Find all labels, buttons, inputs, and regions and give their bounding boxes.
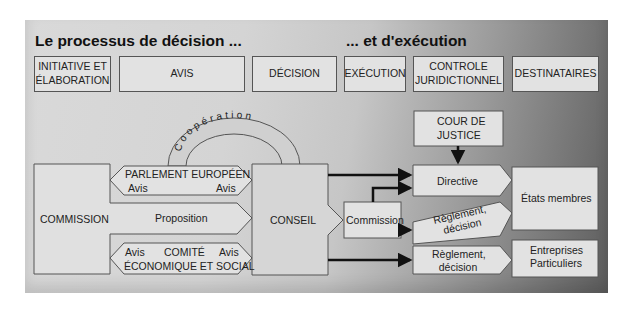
- commission-label: COMMISSION: [40, 213, 109, 225]
- parlement-label: PARLEMENT EUROPÉEN: [125, 168, 250, 180]
- proposition-label: Proposition: [155, 212, 208, 224]
- parlement-avis-left: Avis: [128, 182, 148, 194]
- parlement-avis-right: Avis: [216, 182, 236, 194]
- commission-exec-label: Commission: [346, 214, 404, 226]
- reglement-lower-label: Règlement, décision: [432, 248, 484, 273]
- entreprises-line1: Entreprises: [530, 244, 582, 256]
- comite-label: COMITÉ: [164, 246, 205, 258]
- cour-label: COUR DE JUSTICE: [437, 115, 481, 141]
- comite-avis-right: Avis: [219, 246, 239, 258]
- conseil-label: CONSEIL: [270, 214, 316, 226]
- reglement-lower-line1: Règlement,: [432, 248, 484, 260]
- reglement-lower-line2: décision: [432, 261, 484, 273]
- etats-label: États membres: [521, 192, 592, 204]
- entreprises-line2: Particuliers: [530, 257, 582, 269]
- arrow-commission-directive: [373, 188, 410, 202]
- cour-label-line2: JUSTICE: [437, 129, 481, 141]
- comite-avis-left: Avis: [125, 246, 145, 258]
- comite-label-line2: ÉCONOMIQUE ET SOCIAL: [124, 260, 255, 272]
- cour-label-line1: COUR DE: [437, 115, 481, 127]
- directive-label: Directive: [437, 175, 478, 187]
- entreprises-label: Entreprises Particuliers: [530, 244, 582, 269]
